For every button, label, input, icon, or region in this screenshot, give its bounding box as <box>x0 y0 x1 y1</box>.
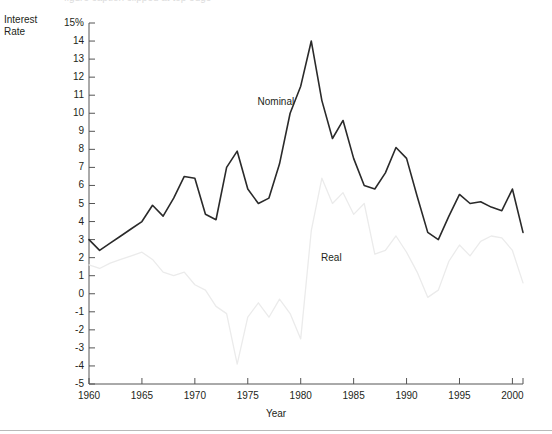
axis-tick-marks <box>89 23 523 384</box>
footer-divider <box>0 430 552 431</box>
plot-area <box>0 0 552 434</box>
interest-rate-line-chart: figure caption clipped at top edge Inter… <box>0 0 552 434</box>
data-series-lines <box>89 41 523 364</box>
axis-lines <box>89 23 523 384</box>
